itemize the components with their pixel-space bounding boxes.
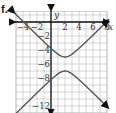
y-tick-label: −2 <box>37 31 50 41</box>
x-tick-label: 6 <box>90 22 95 32</box>
y-tick-label: −12 <box>32 101 50 111</box>
x-tick-label: 4 <box>76 22 81 32</box>
x-tick-label: 2 <box>62 22 67 32</box>
hyperbola-graph: −4−22468−2−4−6−8−12xy <box>0 0 116 113</box>
y-axis-label: y <box>53 10 60 20</box>
y-tick-label: −6 <box>37 59 50 69</box>
x-tick-label: −4 <box>17 22 30 32</box>
x-axis-label: x <box>108 22 113 32</box>
